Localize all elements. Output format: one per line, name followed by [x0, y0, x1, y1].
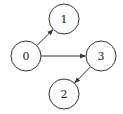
node-label: 0: [23, 50, 30, 63]
node-label: 2: [61, 88, 68, 101]
edge-3-to-2: [75, 67, 91, 83]
node-2: 2: [49, 79, 79, 109]
node-1: 1: [49, 4, 79, 34]
edges-group: [37, 30, 91, 83]
node-3: 3: [86, 41, 116, 71]
node-label: 3: [98, 50, 105, 63]
node-label: 1: [61, 13, 68, 26]
directed-graph: 0132: [0, 0, 123, 114]
edge-0-to-1: [37, 30, 53, 46]
node-0: 0: [11, 41, 41, 71]
